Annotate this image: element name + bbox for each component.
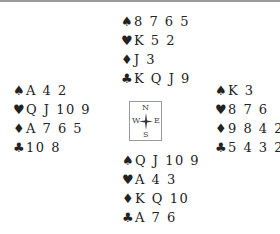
north-spades-cards: 8 7 6 5: [134, 14, 190, 29]
heart-icon: ♥: [121, 31, 134, 50]
club-icon: ♣: [122, 208, 135, 227]
compass-star-icon: [139, 113, 153, 130]
north-diamonds: ♦J 3: [121, 50, 191, 69]
west-clubs: ♣10 8: [13, 138, 91, 157]
south-diamonds-cards: K Q 10: [135, 191, 189, 206]
diamond-icon: ♦: [215, 119, 228, 138]
south-diamonds: ♦K Q 10: [122, 189, 200, 208]
west-diamonds: ♦A 7 6 5: [13, 119, 91, 138]
heart-icon: ♥: [122, 170, 135, 189]
spade-icon: ♠: [13, 81, 26, 100]
diamond-icon: ♦: [121, 50, 134, 69]
east-spades: ♠K 3: [215, 81, 280, 100]
west-clubs-cards: 10 8: [26, 140, 61, 155]
heart-icon: ♥: [13, 100, 26, 119]
west-diamonds-cards: A 7 6 5: [26, 121, 83, 136]
south-hearts: ♥A 4 3: [122, 170, 200, 189]
west-hearts: ♥Q J 10 9: [13, 100, 91, 119]
diamond-icon: ♦: [13, 119, 26, 138]
north-clubs: ♣K Q J 9: [121, 69, 191, 88]
west-hand: ♠A 4 2 ♥Q J 10 9 ♦A 7 6 5 ♣10 8: [13, 81, 91, 157]
club-icon: ♣: [13, 138, 26, 157]
spade-icon: ♠: [122, 151, 135, 170]
east-hearts: ♥8 7 6: [215, 100, 280, 119]
south-spades: ♠Q J 10 9: [122, 151, 200, 170]
club-icon: ♣: [121, 69, 134, 88]
north-hearts: ♥K 5 2: [121, 31, 191, 50]
west-spades: ♠A 4 2: [13, 81, 91, 100]
south-hearts-cards: A 4 3: [135, 172, 177, 187]
top-border: [0, 0, 280, 2]
club-icon: ♣: [215, 138, 228, 157]
west-hearts-cards: Q J 10 9: [26, 102, 91, 117]
east-clubs: ♣5 4 3 2: [215, 138, 280, 157]
north-spades: ♠8 7 6 5: [121, 12, 191, 31]
east-hand: ♠K 3 ♥8 7 6 ♦9 8 4 2 ♣5 4 3 2: [215, 81, 280, 157]
east-clubs-cards: 5 4 3 2: [228, 140, 280, 155]
south-hand: ♠Q J 10 9 ♥A 4 3 ♦K Q 10 ♣A 7 6: [122, 151, 200, 227]
diamond-icon: ♦: [122, 189, 135, 208]
west-spades-cards: A 4 2: [26, 83, 68, 98]
north-diamonds-cards: J 3: [134, 52, 156, 67]
south-clubs: ♣A 7 6: [122, 208, 200, 227]
east-hearts-cards: 8 7 6: [228, 102, 269, 117]
spade-icon: ♠: [121, 12, 134, 31]
compass-east-label: E: [154, 117, 160, 125]
north-hearts-cards: K 5 2: [134, 33, 176, 48]
compass-north-label: N: [142, 104, 149, 112]
north-clubs-cards: K Q J 9: [134, 71, 191, 86]
compass-rose: N W E S: [129, 101, 162, 141]
east-diamonds: ♦9 8 4 2: [215, 119, 280, 138]
east-spades-cards: K 3: [228, 83, 255, 98]
spade-icon: ♠: [215, 81, 228, 100]
south-spades-cards: Q J 10 9: [135, 153, 200, 168]
compass-south-label: S: [143, 131, 148, 139]
south-clubs-cards: A 7 6: [135, 210, 177, 225]
north-hand: ♠8 7 6 5 ♥K 5 2 ♦J 3 ♣K Q J 9: [121, 12, 191, 88]
heart-icon: ♥: [215, 100, 228, 119]
east-diamonds-cards: 9 8 4 2: [228, 121, 280, 136]
